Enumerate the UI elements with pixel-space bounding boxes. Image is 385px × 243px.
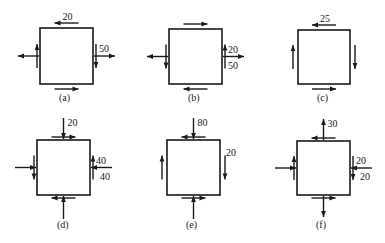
right-normal-arrow [91,165,112,170]
stress-element-figure: 2050(a)2050(b)25(c)204040(d)8020(e)30202… [0,0,385,243]
top-normal-arrow [61,118,66,139]
bottom-shear-arrow-head [73,87,79,92]
panel-b: 2050(b) [147,22,244,104]
right-normal-label: 20 [360,171,370,182]
figure-canvas: 2050(a)2050(b)25(c)204040(d)8020(e)30202… [0,0,385,243]
bottom-shear-arrow [55,87,79,92]
panel-caption: (c) [317,92,328,104]
top-normal-arrow-head [321,119,326,125]
right-shear-arrow-head [91,156,96,162]
stress-element-square [298,30,350,84]
stress-element-square [167,140,220,195]
left-shear-arrow-head [160,156,165,162]
bottom-shear-arrow-head [330,87,336,92]
top-stress-label: 25 [320,13,330,24]
panel-c: 25(c) [291,13,358,104]
panel-a: 2050(a) [18,11,115,104]
stress-element-square [169,29,222,84]
right-normal-label: 40 [100,171,110,182]
left-normal-arrow-head [147,54,153,59]
top-shear-arrow-head [70,135,76,140]
bottom-shear-arrow-head [184,87,190,92]
right-normal-arrow [94,54,115,59]
right-normal-label: 50 [99,43,109,54]
left-normal-arrow [18,54,39,59]
right-normal-arrow-head [91,165,97,170]
right-normal-arrow-head [238,54,244,59]
bottom-shear-arrow-head [330,196,336,201]
bottom-normal-arrow [321,196,326,217]
right-normal-arrow [223,54,244,59]
panel-caption: (d) [57,219,69,231]
right-shear-arrow [353,45,358,69]
stress-element-square [40,28,93,84]
right-normal-arrow-head [351,166,357,171]
left-normal-arrow [147,54,168,59]
right-shear-arrow-head [223,45,228,51]
top-normal-arrow [321,119,326,140]
panel-caption: (e) [186,219,197,231]
left-normal-arrow [275,166,296,171]
top-stress-label: 80 [198,117,208,128]
top-shear-arrow-head [202,22,208,27]
bottom-normal-arrow-head [61,196,66,202]
stress-element-square [297,141,350,195]
left-normal-arrow-head [18,54,24,59]
top-shear-arrow-head [55,21,61,26]
right-shear-label: 40 [96,155,106,166]
panel-caption: (b) [188,92,200,104]
panel-f: 302020(f) [275,118,372,231]
right-shear-label: 20 [226,147,236,158]
bottom-shear-arrow [184,87,208,92]
panel-d: 204040(d) [15,117,112,231]
right-shear-arrow-head [223,174,228,180]
left-shear-arrow [291,45,296,69]
left-shear-arrow-head [292,156,297,162]
left-shear-arrow-head [164,63,169,69]
left-normal-arrow-head [290,166,296,171]
left-shear-arrow [160,156,165,180]
left-normal-arrow-head [30,165,36,170]
bottom-shear-arrow-head [200,196,206,201]
panel-caption: (f) [316,219,326,231]
right-normal-label: 50 [228,60,238,71]
top-shear-arrow-head [312,136,318,141]
top-shear-arrow-head [312,23,318,28]
stress-element-square [37,140,90,195]
right-shear-arrow-head [353,63,358,69]
bottom-normal-arrow-head [321,211,326,217]
bottom-shear-arrow-head [52,196,58,201]
top-normal-arrow-head [191,133,196,139]
left-shear-arrow-head [32,174,37,180]
right-shear-arrow-head [94,62,99,68]
right-normal-arrow-head [109,54,115,59]
top-shear-arrow-head [182,135,188,140]
bottom-normal-arrow [191,196,196,219]
top-stress-label: 30 [328,118,338,129]
left-shear-arrow-head [291,45,296,51]
right-normal-arrow [351,166,372,171]
bottom-normal-arrow-head [191,196,196,202]
right-shear-arrow-head [351,174,356,180]
right-shear-arrow [223,156,228,180]
left-normal-arrow [15,165,36,170]
top-normal-arrow-head [61,133,66,139]
top-shear-arrow [184,22,208,27]
panel-caption: (a) [59,92,70,104]
right-shear-label: 20 [228,44,238,55]
bottom-normal-arrow [61,196,66,219]
top-stress-label: 20 [63,11,73,22]
top-stress-label: 20 [68,117,78,128]
bottom-shear-arrow [312,87,336,92]
panel-e: 8020(e) [160,117,236,231]
top-normal-arrow [191,118,196,139]
right-shear-label: 20 [356,155,366,166]
left-shear-arrow-head [35,44,40,50]
